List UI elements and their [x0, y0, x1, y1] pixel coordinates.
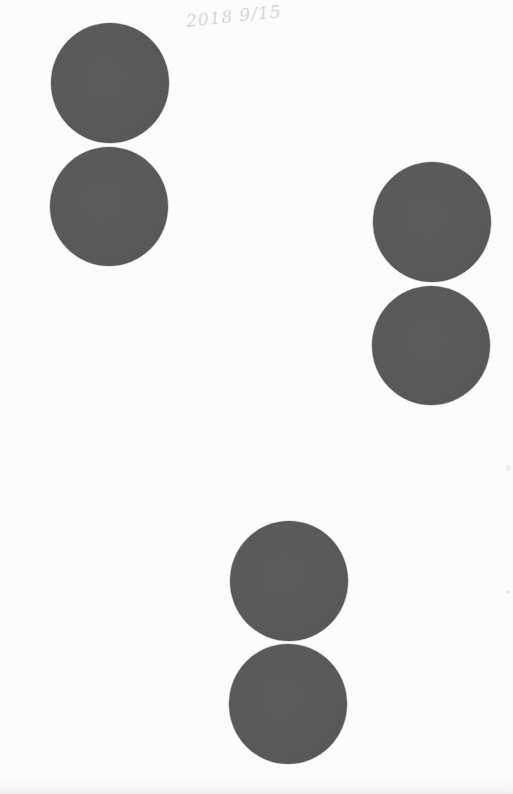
dot-bottom-center-upper — [230, 521, 348, 641]
scanned-page: 2018 9/15 — [0, 0, 513, 794]
dot-right-upper — [373, 162, 491, 282]
dot-bottom-center-lower — [229, 644, 347, 764]
scan-edge-shadow — [0, 780, 513, 794]
dot-right-lower — [372, 286, 490, 405]
scan-speck — [506, 465, 511, 471]
dot-top-left-lower — [50, 147, 168, 266]
dot-top-left-upper — [51, 23, 169, 143]
handwritten-date: 2018 9/15 — [185, 1, 282, 31]
scan-speck — [506, 590, 510, 594]
